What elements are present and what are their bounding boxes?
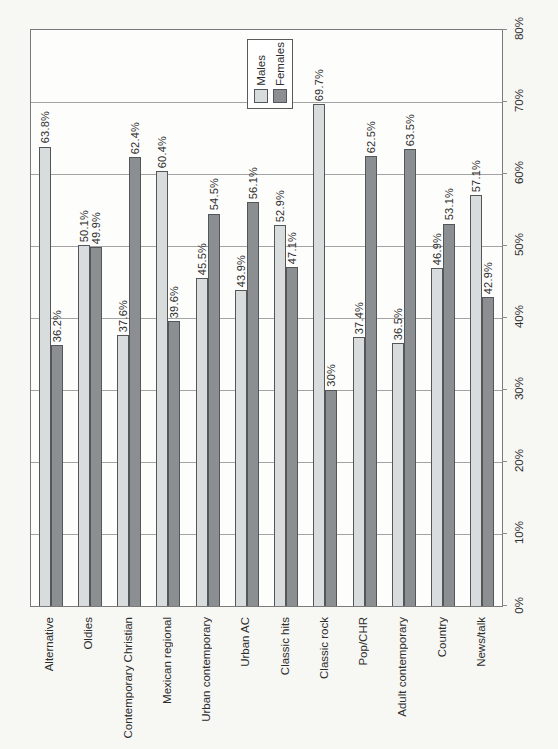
value-label-males-oldies: 50.1% bbox=[78, 210, 90, 242]
category-label-oldies: Oldies bbox=[82, 617, 95, 650]
value-label-males-news-talk: 57.1% bbox=[470, 160, 482, 192]
value-label-females-classic-hits: 47.1% bbox=[286, 232, 298, 264]
axis-tick-60pct: 60% bbox=[504, 143, 532, 203]
legend-label-males: Males bbox=[254, 55, 268, 86]
bar-males-contemporary-christian bbox=[117, 335, 129, 606]
category-label-contemporary-christian: Contemporary Christian bbox=[122, 617, 135, 738]
value-label-females-country: 53.1% bbox=[443, 188, 455, 220]
bar-females-urban-ac bbox=[247, 202, 259, 606]
value-label-males-country: 46.9% bbox=[431, 233, 443, 265]
bar-females-pop-chr bbox=[365, 156, 377, 606]
category-label-urban-ac: Urban AC bbox=[239, 617, 252, 667]
axis-tick-0pct: 0% bbox=[504, 575, 532, 635]
value-label-females-mexican-regional: 39.6% bbox=[168, 286, 180, 318]
bar-females-urban-contemporary bbox=[208, 214, 220, 606]
bar-males-pop-chr bbox=[353, 337, 365, 606]
category-label-urban-contemporary: Urban contemporary bbox=[200, 617, 213, 722]
legend-item-females: Females bbox=[273, 40, 287, 103]
bar-males-mexican-regional bbox=[156, 171, 168, 606]
category-label-alternative: Alternative bbox=[43, 617, 56, 671]
bar-females-adult-contemporary bbox=[404, 149, 416, 606]
category-label-adult-contemporary: Adult contemporary bbox=[396, 617, 409, 717]
bar-females-news-talk bbox=[482, 297, 494, 606]
legend-item-males: Males bbox=[254, 40, 268, 103]
value-label-females-alternative: 36.2% bbox=[51, 310, 63, 342]
legend-swatch-males bbox=[254, 89, 268, 103]
axis-tick-label-40pct: 40% bbox=[513, 305, 526, 328]
value-label-males-urban-contemporary: 45.5% bbox=[196, 243, 208, 275]
value-label-females-classic-rock: 30% bbox=[325, 364, 337, 387]
bar-females-alternative bbox=[51, 345, 63, 606]
axis-tick-label-70pct: 70% bbox=[513, 89, 526, 112]
value-label-females-pop-chr: 62.5% bbox=[365, 121, 377, 153]
axis-tick-label-60pct: 60% bbox=[513, 161, 526, 184]
legend-swatch-females bbox=[273, 89, 287, 103]
category-label-classic-hits: Classic hits bbox=[279, 617, 292, 675]
axis-tick-50pct: 50% bbox=[504, 215, 532, 275]
axis-tick-label-20pct: 20% bbox=[513, 449, 526, 472]
value-label-females-news-talk: 42.9% bbox=[482, 262, 494, 294]
value-label-males-contemporary-christian: 37.6% bbox=[117, 300, 129, 332]
axis-tick-label-10pct: 10% bbox=[513, 521, 526, 544]
value-label-females-adult-contemporary: 63.5% bbox=[404, 114, 416, 146]
value-label-males-classic-hits: 52.9% bbox=[274, 190, 286, 222]
value-label-females-contemporary-christian: 62.4% bbox=[129, 122, 141, 154]
bar-chart-page: 63.8%36.2%50.1%49.9%37.6%62.4%60.4%39.6%… bbox=[0, 0, 558, 749]
bar-females-mexican-regional bbox=[168, 321, 180, 606]
category-label-classic-rock: Classic rock bbox=[318, 617, 331, 679]
axis-tick-10pct: 10% bbox=[504, 503, 532, 563]
value-label-females-urban-contemporary: 54.5% bbox=[208, 178, 220, 210]
axis-tick-label-50pct: 50% bbox=[513, 233, 526, 256]
plot-area: 63.8%36.2%50.1%49.9%37.6%62.4%60.4%39.6%… bbox=[30, 29, 503, 607]
bar-females-classic-hits bbox=[286, 267, 298, 606]
bar-males-country bbox=[431, 268, 443, 606]
legend-label-females: Females bbox=[273, 42, 287, 86]
bar-females-country bbox=[443, 224, 455, 606]
bar-males-oldies bbox=[78, 245, 90, 606]
value-label-males-alternative: 63.8% bbox=[39, 111, 51, 143]
axis-tick-80pct: 80% bbox=[504, 0, 532, 59]
bar-males-urban-contemporary bbox=[196, 278, 208, 606]
gridline-60pct bbox=[31, 174, 502, 175]
axis-tick-label-80pct: 80% bbox=[513, 17, 526, 40]
category-label-country: Country bbox=[436, 617, 449, 657]
value-label-males-classic-rock: 69.7% bbox=[313, 69, 325, 101]
value-label-males-urban-ac: 43.9% bbox=[235, 255, 247, 287]
category-label-mexican-regional: Mexican regional bbox=[161, 617, 174, 704]
category-label-news-talk: News/talk bbox=[475, 617, 488, 667]
axis-tick-70pct: 70% bbox=[504, 71, 532, 131]
value-label-males-pop-chr: 37.4% bbox=[353, 302, 365, 334]
value-label-males-adult-contemporary: 36.5% bbox=[392, 308, 404, 340]
bar-females-contemporary-christian bbox=[129, 157, 141, 606]
bar-males-alternative bbox=[39, 147, 51, 606]
bar-males-adult-contemporary bbox=[392, 343, 404, 606]
legend: Males Females bbox=[247, 39, 293, 109]
axis-tick-30pct: 30% bbox=[504, 359, 532, 419]
bar-males-classic-rock bbox=[313, 104, 325, 606]
value-label-females-oldies: 49.9% bbox=[90, 212, 102, 244]
axis-tick-40pct: 40% bbox=[504, 287, 532, 347]
value-label-females-urban-ac: 56.1% bbox=[247, 167, 259, 199]
bar-females-classic-rock bbox=[325, 390, 337, 606]
category-label-pop-chr: Pop/CHR bbox=[357, 617, 370, 666]
axis-tick-label-0pct: 0% bbox=[513, 597, 526, 614]
bar-females-oldies bbox=[90, 247, 102, 606]
bar-males-urban-ac bbox=[235, 290, 247, 606]
bar-males-classic-hits bbox=[274, 225, 286, 606]
bar-males-news-talk bbox=[470, 195, 482, 606]
axis-tick-20pct: 20% bbox=[504, 431, 532, 491]
value-label-males-mexican-regional: 60.4% bbox=[156, 136, 168, 168]
axis-tick-label-30pct: 30% bbox=[513, 377, 526, 400]
